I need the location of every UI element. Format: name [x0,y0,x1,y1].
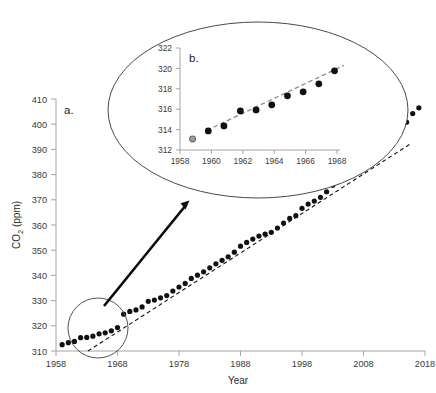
data-point [189,276,194,281]
data-point [158,295,163,300]
svg-text:CO2 (ppm): CO2 (ppm) [11,201,25,249]
y-axis-title-base: CO [11,234,22,249]
panel-b-ytick-322: 322 [158,43,172,53]
panel-a-xtick-1988: 1988 [230,359,250,369]
figure-container: 410 400 390 380 370 360 350 340 330 320 … [0,0,436,393]
data-point [221,123,228,130]
data-point [140,304,145,309]
panel-b-group: 322 320 318 316 314 312 1958 1960 1962 1… [108,22,408,198]
data-point [410,111,415,116]
data-point [109,328,114,333]
data-point [164,293,169,298]
data-point [237,107,244,114]
panel-a-xtick-1958: 1958 [46,359,66,369]
data-point [133,307,138,312]
panel-b-xtick-1968: 1968 [328,156,347,166]
co2-figure: 410 400 390 380 370 360 350 340 330 320 … [0,0,436,393]
panel-a-xtick-1968: 1968 [107,359,127,369]
panel-a-ytick-410: 410 [32,95,47,105]
data-point [170,288,175,293]
data-point [306,201,311,206]
panel-b-xtick-1966: 1966 [296,156,315,166]
panel-a-ytick-370: 370 [32,195,47,205]
panel-a-ytick-350: 350 [32,246,47,256]
data-point [146,299,151,304]
data-point [299,206,304,211]
panel-a-ytick-400: 400 [32,120,47,130]
panel-a-ytick-310: 310 [32,347,47,357]
data-point [263,231,268,236]
panel-b-label: b. [189,52,199,64]
data-point [176,284,181,289]
data-point [250,237,255,242]
data-point [84,335,89,340]
data-point [312,198,317,203]
panel-b-ytick-320: 320 [158,64,172,74]
panel-b-ytick-318: 318 [158,84,172,94]
data-point [232,250,237,255]
panel-b-xtick-1964: 1964 [265,156,284,166]
data-point [268,101,275,108]
data-point [244,240,249,245]
panel-a-ytick-390: 390 [32,145,47,155]
data-point [256,233,261,238]
panel-b-highlight-point [190,136,196,142]
callout-annotations [68,201,190,359]
panel-a-x-axis-title: Year [228,375,249,386]
panel-a-ytick-340: 340 [32,271,47,281]
panel-a-xtick-2018: 2018 [415,359,435,369]
data-point [205,128,212,135]
panel-a-ytick-380: 380 [32,170,47,180]
data-point [275,225,280,230]
data-point [253,106,260,113]
data-point [207,265,212,270]
data-point [219,258,224,263]
panel-a-ytick-360: 360 [32,221,47,231]
data-point [281,220,286,225]
data-point [90,334,95,339]
data-point [324,189,329,194]
panel-a-ytick-330: 330 [32,296,47,306]
data-point [318,195,323,200]
panel-b-ytick-316: 316 [158,104,172,114]
panel-b-xtick-1958: 1958 [171,156,190,166]
data-point [300,88,307,95]
data-point [127,309,132,314]
data-point [152,298,157,303]
data-point [284,92,291,99]
panel-b-xtick-1960: 1960 [202,156,221,166]
data-point [78,335,83,340]
data-point [287,216,292,221]
data-point [190,136,196,142]
data-point [66,340,71,345]
data-point [195,273,200,278]
panel-a-y-axis-title: CO2 (ppm) [11,201,25,249]
data-point [96,331,101,336]
panel-a-ytick-320: 320 [32,321,47,331]
data-point [115,325,120,330]
panel-a-xtick-1998: 1998 [292,359,312,369]
data-point [293,213,298,218]
data-point [315,80,322,87]
panel-a-xtick-2008: 2008 [353,359,373,369]
panel-a-y-ticks [51,99,56,351]
data-point [269,230,274,235]
data-point [238,244,243,249]
data-point [201,269,206,274]
panel-b-xtick-1962: 1962 [233,156,252,166]
data-point [103,330,108,335]
data-point [60,342,65,347]
panel-a-label: a. [64,104,74,116]
panel-b-ytick-314: 314 [158,125,172,135]
panel-a-xtick-1978: 1978 [169,359,189,369]
data-point [226,254,231,259]
data-point [416,105,421,110]
data-point [213,261,218,266]
data-point [183,281,188,286]
data-point [331,67,338,74]
panel-b-ytick-312: 312 [158,145,172,155]
y-axis-title-units: (ppm) [11,201,22,230]
